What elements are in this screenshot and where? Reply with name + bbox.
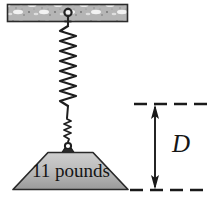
dimension-annotation [130, 104, 208, 190]
hook-mount-icon [62, 143, 74, 153]
spring-coil [60, 26, 76, 106]
connecting-wire [64, 106, 71, 142]
weight-label: 11 pounds [13, 161, 129, 180]
dimension-label-d: D [172, 131, 190, 156]
physics-diagram-figure: D 11 pounds [0, 0, 215, 203]
